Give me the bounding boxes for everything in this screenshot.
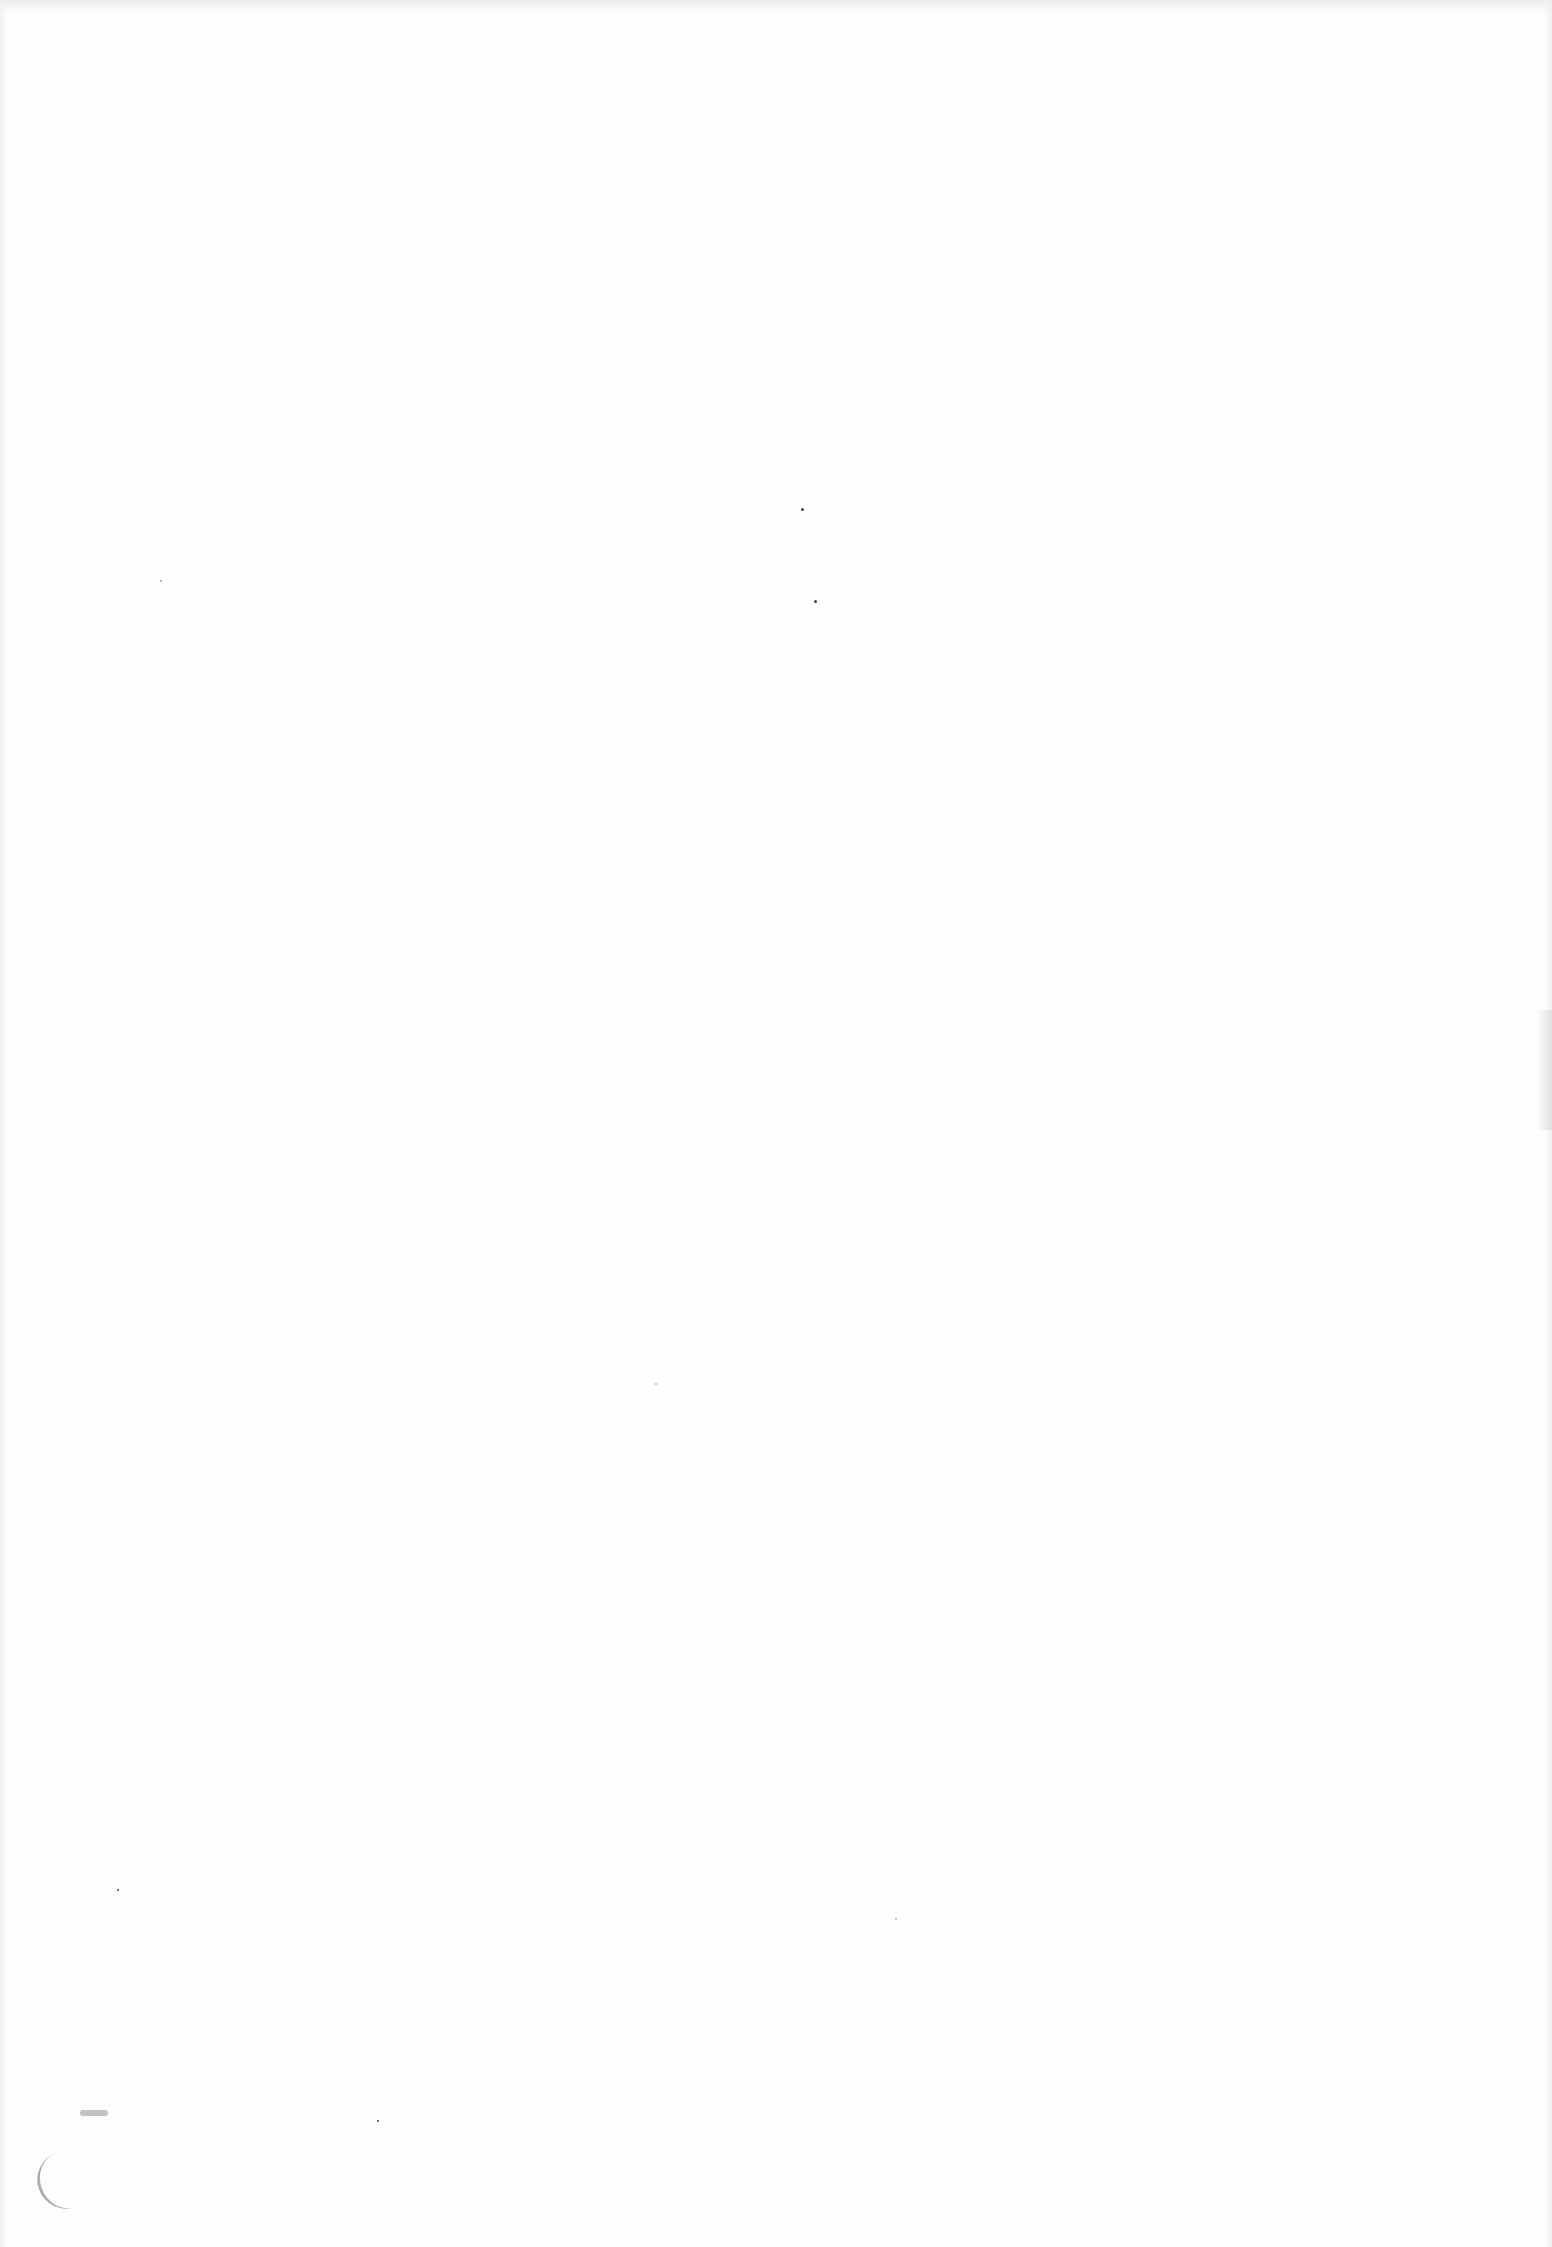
scan-left-edge xyxy=(0,0,8,2247)
scan-speck xyxy=(895,1918,897,1920)
scan-top-edge xyxy=(0,0,1552,14)
scan-speck xyxy=(117,1889,119,1891)
scan-speck xyxy=(655,1383,657,1385)
scan-speck xyxy=(801,508,804,511)
scan-speck xyxy=(160,580,162,582)
scan-smudge-dots xyxy=(80,2110,108,2116)
scan-right-shadow xyxy=(1536,1010,1552,1130)
scan-speck xyxy=(377,2120,379,2122)
scan-speck xyxy=(814,600,817,603)
blank-document-page xyxy=(0,0,1552,2247)
scan-smudge xyxy=(29,2151,80,2217)
